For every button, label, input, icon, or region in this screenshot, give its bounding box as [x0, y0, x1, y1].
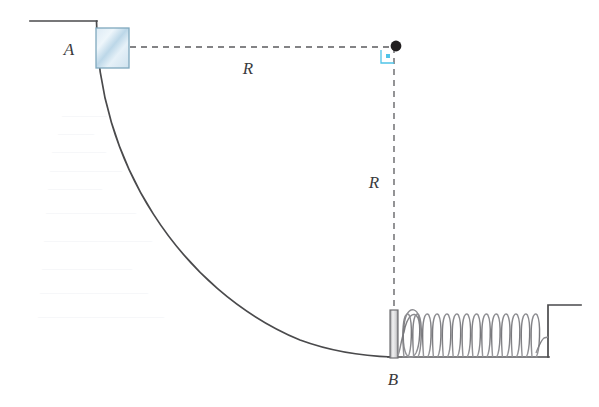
centre-point-dot-icon — [391, 41, 402, 52]
spring-coil-loop — [432, 314, 440, 357]
svg-text:————————: ———————— — [49, 165, 123, 175]
svg-text:——————————: —————————— — [45, 207, 137, 217]
spring-coil-loop — [452, 314, 460, 357]
diagram-canvas: ————— ———— —————— ———————— —————— ——————… — [0, 0, 599, 407]
spring-coil-loop — [482, 314, 490, 357]
spring-coil-loop — [531, 314, 539, 357]
svg-text:————: ———— — [57, 128, 95, 138]
spring-coil-loop — [472, 314, 480, 357]
label-radius-vertical: R — [368, 173, 380, 192]
spring-coil-loop — [423, 314, 432, 357]
background-ghost-marks: ————— ———— —————— ———————— —————— ——————… — [37, 110, 165, 321]
label-radius-horizontal: R — [242, 59, 254, 78]
spring-coil-loop — [521, 314, 529, 357]
block-at-point-a — [96, 28, 129, 68]
svg-text:————————————: ———————————— — [39, 287, 149, 297]
svg-text:——————: —————— — [51, 146, 107, 156]
physics-diagram-figure: ————— ———— —————— ———————— —————— ——————… — [0, 0, 599, 407]
right-wall-and-ledge — [548, 305, 581, 357]
spring-coil-loop — [492, 314, 501, 357]
spring-coils — [398, 310, 548, 358]
spring-coil-loop — [442, 314, 451, 357]
svg-text:————————————: ———————————— — [43, 235, 153, 245]
label-point-a: A — [63, 40, 75, 59]
svg-text:——————————: —————————— — [41, 263, 133, 273]
spring-coil-loop — [511, 314, 520, 357]
svg-text:——————————————: —————————————— — [37, 311, 165, 321]
spring-end-plate — [390, 310, 398, 358]
spring-coil-loop — [462, 314, 470, 357]
spring-coil-loop — [501, 314, 509, 357]
label-point-b: B — [388, 370, 399, 389]
right-angle-marker-dot-icon — [386, 54, 390, 58]
svg-text:——————: —————— — [47, 183, 103, 193]
svg-text:—————: ————— — [61, 110, 108, 120]
